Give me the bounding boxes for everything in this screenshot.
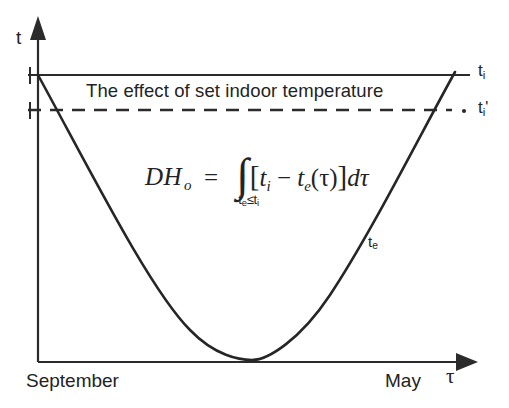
level-label-ti: ti (478, 62, 485, 81)
equation-lhs-base: DH (145, 163, 182, 190)
y-axis-label: t (16, 28, 21, 47)
equation-integral-limit: te≤ti (238, 192, 259, 208)
x-axis-start-label: September (26, 371, 119, 390)
degree-hours-equation: DHo = ∫ [ti − te(τ)]dτ te≤ti (145, 156, 369, 207)
equation-integrand: [ti − te(τ)]dτ (250, 156, 369, 194)
x-axis-end-label: May (385, 371, 421, 390)
level-label-prime-mark: ' (485, 98, 488, 116)
equation-open-bracket: [ (250, 160, 260, 192)
degree-hours-figure: t τ September May The effect of set indo… (0, 0, 509, 408)
level-label-ti-subscript: i (483, 69, 486, 81)
equation-term1-subscript: i (266, 178, 270, 194)
banner-text: The effect of set indoor temperature (86, 82, 383, 101)
x-axis-arrow-icon (456, 353, 478, 371)
equation-integrand-row: ∫ [ti − te(τ)]dτ (236, 156, 368, 194)
equation-close-bracket: ] (338, 160, 348, 192)
x-axis-label: τ (446, 366, 454, 387)
equation-lhs: DHo (145, 156, 192, 193)
curve-label-te-subscript: e (372, 240, 378, 251)
equation-differential: dτ (347, 164, 368, 191)
equation-lhs-subscript: o (182, 177, 192, 193)
curve-te (38, 72, 455, 360)
y-axis-arrow-icon (30, 16, 46, 40)
dashed-line-end-dot (462, 109, 466, 113)
equation-minus-sign: − (277, 164, 291, 191)
integral-sign-icon: ∫ (236, 157, 250, 193)
equation-argument: (τ) (311, 164, 338, 191)
equation-integral-group: ∫ [ti − te(τ)]dτ te≤ti (236, 156, 368, 207)
equation-equals-sign: = (192, 156, 218, 192)
equation-limit-term2-subscript: i (257, 197, 259, 207)
equation-term2-subscript: e (304, 178, 311, 194)
curve-label-te: te (368, 234, 378, 251)
level-label-ti-prime: ti' (478, 99, 488, 118)
equation-limit-relation: ≤ (247, 192, 254, 207)
